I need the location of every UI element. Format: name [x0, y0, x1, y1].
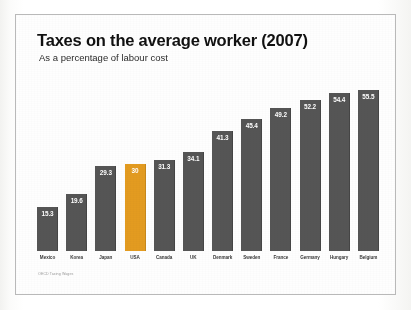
x-axis-label-mexico: Mexico — [37, 255, 58, 260]
bar-japan[interactable]: 29.3 — [95, 166, 116, 251]
bar-slot: 41.3 — [212, 77, 233, 251]
bar-value-label: 41.3 — [217, 134, 229, 141]
bar-slot: 19.6 — [66, 77, 87, 251]
bar-canada[interactable]: 31.3 — [154, 160, 175, 251]
bar-belgium[interactable]: 55.5 — [358, 90, 379, 251]
bar-value-label: 52.2 — [304, 103, 316, 110]
bar-slot: 31.3 — [154, 77, 175, 251]
chart-title: Taxes on the average worker (2007) — [37, 31, 308, 50]
x-axis-labels: MexicoKoreaJapanUSACanadaUKDenmarkSweden… — [37, 255, 379, 260]
chart-subtitle: As a percentage of labour cost — [39, 52, 168, 63]
bar-value-label: 31.3 — [158, 163, 170, 170]
bar-slot: 29.3 — [95, 77, 116, 251]
x-axis-label-korea: Korea — [66, 255, 87, 260]
x-axis-label-denmark: Denmark — [212, 255, 233, 260]
bar-france[interactable]: 49.2 — [270, 108, 291, 251]
bar-slot: 15.3 — [37, 77, 58, 251]
source-note: OECD Taxing Wages — [38, 272, 73, 276]
bar-value-label: 19.6 — [71, 197, 83, 204]
bar-value-label: 29.3 — [100, 169, 112, 176]
bar-sweden[interactable]: 45.4 — [241, 119, 262, 251]
bar-slot: 55.5 — [358, 77, 379, 251]
bar-korea[interactable]: 19.6 — [66, 194, 87, 251]
bar-slot: 54.4 — [329, 77, 350, 251]
bar-value-label: 55.5 — [362, 93, 374, 100]
chart-plot-area: 15.319.629.33031.334.141.345.449.252.254… — [37, 77, 379, 251]
bar-slot: 52.2 — [300, 77, 321, 251]
x-axis-label-japan: Japan — [95, 255, 116, 260]
x-axis-label-france: France — [270, 255, 291, 260]
bar-usa[interactable]: 30 — [125, 164, 146, 251]
bar-hungary[interactable]: 54.4 — [329, 93, 350, 251]
bar-slot: 49.2 — [270, 77, 291, 251]
bar-mexico[interactable]: 15.3 — [37, 207, 58, 251]
bar-series: 15.319.629.33031.334.141.345.449.252.254… — [37, 77, 379, 251]
bar-slot: 30 — [125, 77, 146, 251]
x-axis-label-sweden: Sweden — [241, 255, 262, 260]
bar-slot: 34.1 — [183, 77, 204, 251]
bar-value-label: 54.4 — [333, 96, 345, 103]
slide-frame: Taxes on the average worker (2007) As a … — [15, 14, 396, 295]
bar-value-label: 34.1 — [187, 155, 199, 162]
x-axis-label-hungary: Hungary — [329, 255, 350, 260]
x-axis-label-canada: Canada — [154, 255, 175, 260]
bar-value-label: 30 — [132, 167, 139, 174]
bar-germany[interactable]: 52.2 — [300, 100, 321, 251]
bar-uk[interactable]: 34.1 — [183, 152, 204, 251]
x-axis-label-usa: USA — [125, 255, 146, 260]
x-axis-label-uk: UK — [183, 255, 204, 260]
bar-slot: 45.4 — [241, 77, 262, 251]
bar-value-label: 15.3 — [41, 210, 53, 217]
x-axis-label-germany: Germany — [300, 255, 321, 260]
bar-value-label: 49.2 — [275, 111, 287, 118]
bar-value-label: 45.4 — [246, 122, 258, 129]
bar-denmark[interactable]: 41.3 — [212, 131, 233, 251]
x-axis-label-belgium: Belgium — [358, 255, 379, 260]
